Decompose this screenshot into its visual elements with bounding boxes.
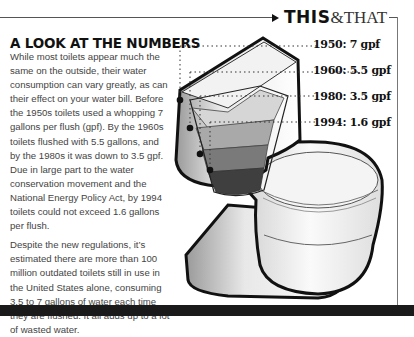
footer-bar (0, 305, 414, 316)
level-label-1980: 1980: 3.5 gpf (313, 90, 391, 103)
brand-light: &THAT (330, 8, 387, 27)
paragraph-1: While most toilets appear much the same … (10, 50, 170, 233)
section-brand: THIS&THAT (284, 6, 387, 28)
level-label-1950: 1950: 7 gpf (313, 38, 380, 51)
frame-corner (389, 17, 397, 18)
header-rule (0, 17, 276, 18)
level-label-1960: 1960: 5.5 gpf (313, 64, 391, 77)
paragraph-2: Despite the new regulations, it’s estima… (10, 238, 170, 337)
level-label-1994: 1994: 1.6 gpf (313, 116, 391, 129)
article-body: While most toilets appear much the same … (10, 50, 170, 337)
brand-bold: THIS (284, 7, 330, 27)
arrow-right-icon (272, 14, 279, 22)
